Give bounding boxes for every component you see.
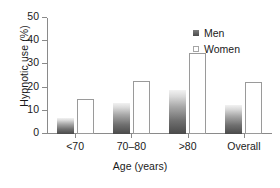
x-axis-tick xyxy=(188,134,189,138)
x-axis-tick xyxy=(131,134,132,138)
y-axis-tick: 20 xyxy=(42,87,47,88)
x-axis-tick xyxy=(244,134,245,138)
chart-legend: Men Women xyxy=(193,26,240,58)
x-axis-group-label: >80 xyxy=(179,140,197,152)
legend-item-men: Men xyxy=(193,26,240,40)
y-axis-tick: 10 xyxy=(42,110,47,111)
bar-women-0 xyxy=(77,99,94,134)
y-axis-tick: 50 xyxy=(42,17,47,18)
x-axis-tick xyxy=(75,134,76,138)
legend-item-women: Women xyxy=(193,42,240,56)
y-axis-tick-label: 40 xyxy=(27,33,39,45)
y-axis-tick: 40 xyxy=(42,40,47,41)
x-axis-group-label: Overall xyxy=(227,140,260,152)
bar-men-0 xyxy=(57,118,74,134)
men-swatch-icon xyxy=(193,30,199,36)
bar-men-1 xyxy=(113,103,130,134)
bar-women-1 xyxy=(133,81,150,134)
bar-women-2 xyxy=(189,53,206,134)
y-axis-tick-label: 0 xyxy=(33,126,39,138)
legend-label-men: Men xyxy=(204,27,224,39)
y-axis-tick-label: 20 xyxy=(27,80,39,92)
bar-men-2 xyxy=(169,90,186,134)
x-axis-group-label: <70 xyxy=(66,140,84,152)
y-axis-tick-label: 10 xyxy=(27,103,39,115)
y-axis-tick: 30 xyxy=(42,63,47,64)
y-axis-line xyxy=(47,18,48,134)
legend-label-women: Women xyxy=(204,43,240,55)
bar-women-3 xyxy=(245,82,262,134)
x-axis-title: Age (years) xyxy=(0,160,280,172)
x-axis-group-label: 70–80 xyxy=(117,140,146,152)
hypnotic-use-bar-chart: Hypnotic use (%) 01020304050 <7070–80>80… xyxy=(0,0,280,188)
y-axis-tick-label: 30 xyxy=(27,56,39,68)
y-axis-tick-label: 50 xyxy=(27,10,39,22)
women-swatch-icon xyxy=(193,46,199,52)
bar-men-3 xyxy=(225,105,242,134)
y-axis-tick: 0 xyxy=(42,133,47,134)
